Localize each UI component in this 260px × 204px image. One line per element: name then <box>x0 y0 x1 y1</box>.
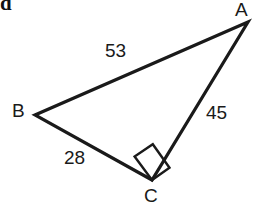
side-length-label-ac: 45 <box>206 103 227 122</box>
side-length-label-bc: 28 <box>64 148 85 167</box>
vertex-label-b: B <box>12 101 25 120</box>
side-length-label-ab: 53 <box>105 41 126 60</box>
triangle-diagram-canvas: d A B C 53 45 28 <box>0 0 260 204</box>
vertex-label-c: C <box>144 186 158 204</box>
vertex-label-a: A <box>235 0 248 19</box>
list-item-marker: d <box>0 0 12 14</box>
